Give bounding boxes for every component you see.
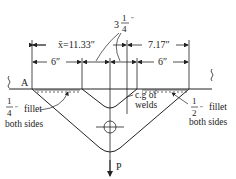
svg-text:1: 1 — [7, 96, 12, 106]
right-weld-callout: 1 2 ″ fillet both sides — [172, 93, 228, 127]
svg-text:″: ″ — [15, 104, 18, 112]
break-left-icon — [8, 76, 10, 88]
xbar-label: x̄=11.33″ — [58, 39, 95, 50]
svg-text:4: 4 — [7, 108, 12, 118]
left-weld-callout: 1 4 ″ fillet both sides — [5, 92, 68, 129]
right-total-label: 7.17″ — [148, 39, 170, 50]
svg-text:fillet: fillet — [24, 104, 42, 114]
support-label-a: A — [21, 77, 29, 88]
svg-text:3: 3 — [114, 19, 119, 30]
svg-text:both sides: both sides — [189, 117, 228, 127]
bracket-inner-cutout — [82, 89, 137, 108]
svg-text:both sides: both sides — [5, 119, 44, 129]
support-plate — [8, 69, 213, 89]
left-weld-hatch — [35, 89, 80, 93]
cg-label-line2: welds — [135, 100, 157, 110]
svg-text:″: ″ — [131, 15, 134, 23]
svg-text:fillet: fillet — [209, 102, 227, 112]
bracket-outer-outline — [32, 89, 189, 152]
svg-text:1: 1 — [192, 96, 197, 106]
weld-bracket-diagram: x̄=11.33″ 7.17″ 6″ 6″ 3 1 4 ″ A c.g of w… — [0, 0, 236, 179]
svg-text:1: 1 — [122, 13, 127, 23]
cg-label-line1: c.g of — [135, 90, 157, 100]
gap-fraction-label: 3 1 4 ″ — [96, 13, 134, 61]
svg-text:4: 4 — [122, 24, 127, 34]
svg-text:″: ″ — [200, 104, 203, 112]
load-label-p: P — [116, 161, 122, 172]
right-leg-label: 6″ — [158, 56, 167, 67]
break-right-icon — [211, 69, 213, 81]
left-leg-label: 6″ — [51, 56, 60, 67]
